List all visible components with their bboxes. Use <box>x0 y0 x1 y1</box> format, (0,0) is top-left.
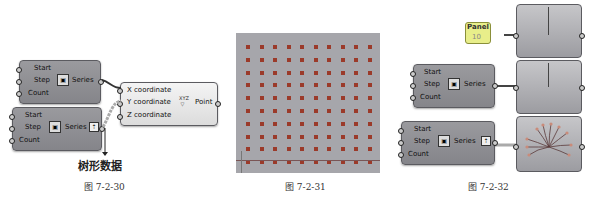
series-component-3[interactable]: Start Step Count ▣ Series <box>413 64 495 108</box>
grid-point <box>287 96 291 100</box>
grid-point <box>368 147 372 151</box>
branching-tree-graph <box>517 117 581 171</box>
count-port[interactable] <box>398 152 404 158</box>
grid-point <box>246 122 250 126</box>
grid-point <box>314 96 318 100</box>
grid-point <box>314 135 318 139</box>
panel-title: Panel <box>467 23 489 31</box>
grid-point <box>246 58 250 62</box>
grid-point <box>273 83 277 87</box>
series-output-label: Series <box>454 137 476 145</box>
grid-point <box>327 122 331 126</box>
grid-point <box>246 109 250 113</box>
point-grid-viewport <box>236 33 380 173</box>
grid-point <box>354 135 358 139</box>
grid-point <box>354 58 358 62</box>
grid-point <box>300 58 304 62</box>
grid-point <box>368 45 372 49</box>
grid-point <box>327 147 331 151</box>
grid-point <box>273 71 277 75</box>
step-port[interactable] <box>398 140 404 146</box>
grid-point <box>341 71 345 75</box>
grid-point <box>314 71 318 75</box>
grid-point <box>246 83 250 87</box>
grid-point <box>300 71 304 75</box>
grid-point <box>314 147 318 151</box>
graph-viewer-2[interactable] <box>516 60 582 114</box>
grid-point <box>354 96 358 100</box>
grid-point <box>368 71 372 75</box>
viewer-output-port[interactable] <box>579 85 585 91</box>
grid-point <box>327 45 331 49</box>
series-output-port[interactable] <box>492 140 498 146</box>
grid-point <box>341 135 345 139</box>
grid-point <box>246 147 250 151</box>
graph-viewer-1[interactable] <box>516 4 582 58</box>
grid-point <box>354 122 358 126</box>
grid-point <box>273 96 277 100</box>
grid-point <box>327 109 331 113</box>
grid-point <box>260 135 264 139</box>
grid-point <box>246 45 250 49</box>
figure-caption-30: 图 7-2-30 <box>84 180 125 193</box>
grid-point <box>273 122 277 126</box>
grid-point <box>300 109 304 113</box>
grid-point <box>300 45 304 49</box>
start-port[interactable] <box>410 71 416 77</box>
grid-point <box>341 83 345 87</box>
grid-point <box>300 122 304 126</box>
x-axis <box>236 160 380 161</box>
viewer-output-port[interactable] <box>579 33 585 39</box>
series-icon: ▣ <box>438 135 450 147</box>
figure-caption-32: 图 7-2-32 <box>468 180 509 193</box>
single-branch-line <box>548 63 549 87</box>
grid-point <box>314 58 318 62</box>
grid-point <box>314 122 318 126</box>
grid-point <box>246 135 250 139</box>
grid-point <box>273 109 277 113</box>
series-component-4[interactable]: Start Step Count ▣ Series ⇡ <box>401 121 495 165</box>
grid-point <box>287 58 291 62</box>
grid-point <box>287 147 291 151</box>
viewer-input-port[interactable] <box>513 144 519 150</box>
series-output-label: Series <box>464 80 486 88</box>
grid-point <box>368 135 372 139</box>
grid-point <box>287 83 291 87</box>
grid-point <box>368 58 372 62</box>
step-label: Step <box>424 80 440 88</box>
grid-point <box>287 122 291 126</box>
panel-value[interactable]: 10 <box>472 33 481 41</box>
grid-point <box>246 71 250 75</box>
grid-point <box>314 45 318 49</box>
step-label: Step <box>414 137 430 145</box>
count-label: Count <box>408 150 429 158</box>
grid-point <box>341 58 345 62</box>
grid-point <box>300 135 304 139</box>
step-port[interactable] <box>410 83 416 89</box>
grid-point <box>260 45 264 49</box>
series-output-port[interactable] <box>492 83 498 89</box>
grid-point <box>260 109 264 113</box>
count-port[interactable] <box>410 95 416 101</box>
start-label: Start <box>424 68 441 76</box>
viewer-input-port[interactable] <box>513 33 519 39</box>
grid-point <box>246 96 250 100</box>
grid-point <box>273 58 277 62</box>
grid-point <box>260 58 264 62</box>
grid-point <box>327 58 331 62</box>
panel-component[interactable]: Panel 10 <box>465 22 491 44</box>
viewer-output-port[interactable] <box>579 144 585 150</box>
tree-data-annotation: 树形数据 <box>78 157 122 173</box>
grid-point <box>260 122 264 126</box>
grid-point <box>327 83 331 87</box>
figure-caption-31: 图 7-2-31 <box>285 180 326 193</box>
grid-point <box>368 109 372 113</box>
grid-point <box>260 147 264 151</box>
viewer-input-port[interactable] <box>513 85 519 91</box>
graph-viewer-3[interactable] <box>516 116 582 172</box>
grid-point <box>287 135 291 139</box>
grid-point <box>327 135 331 139</box>
grid-point <box>368 122 372 126</box>
grid-point <box>354 147 358 151</box>
start-port[interactable] <box>398 128 404 134</box>
